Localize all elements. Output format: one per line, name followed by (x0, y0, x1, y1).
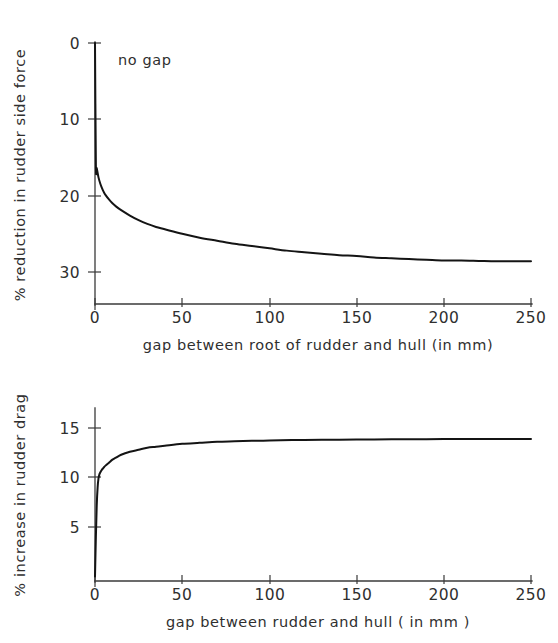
top-x-tick-label-100: 100 (255, 309, 286, 327)
chart-canvas: 0 10 20 30 0 50 100 150 200 250 gap betw… (0, 0, 558, 643)
bottom-x-tick-label-150: 150 (342, 586, 373, 604)
bottom-x-tick-label-50: 50 (172, 586, 193, 604)
top-y-tick-label-30: 30 (59, 264, 80, 282)
bottom-x-tick-label-0: 0 (90, 586, 100, 604)
top-y-tick-label-20: 20 (59, 188, 80, 206)
top-x-tick-label-50: 50 (172, 309, 193, 327)
top-x-tick-label-0: 0 (90, 309, 100, 327)
figure-container: 0 10 20 30 0 50 100 150 200 250 gap betw… (0, 0, 558, 643)
top-chart-no-gap-annotation: no gap (118, 52, 172, 68)
bottom-x-tick-label-200: 200 (429, 586, 460, 604)
top-x-tick-label-150: 150 (342, 309, 373, 327)
bottom-y-tick-label-5: 5 (70, 519, 80, 537)
bottom-chart-y-axis-title: % increase in rudder drag (12, 393, 28, 596)
top-x-tick-label-250: 250 (516, 309, 547, 327)
bottom-chart: 15 10 5 0 50 100 150 200 250 gap between… (12, 393, 546, 630)
bottom-chart-x-axis-title: gap between rudder and hull ( in mm ) (166, 614, 470, 630)
bottom-x-tick-label-250: 250 (516, 586, 547, 604)
top-chart: 0 10 20 30 0 50 100 150 200 250 gap betw… (12, 35, 546, 354)
bottom-y-tick-label-15: 15 (59, 420, 80, 438)
top-chart-y-axis-title: % reduction in rudder side force (12, 49, 28, 302)
top-y-tick-label-10: 10 (59, 111, 80, 129)
top-x-tick-label-200: 200 (429, 309, 460, 327)
bottom-x-tick-label-100: 100 (255, 586, 286, 604)
top-chart-x-axis-title: gap between root of rudder and hull (in … (143, 337, 494, 353)
top-y-tick-label-0: 0 (70, 35, 80, 53)
bottom-y-tick-label-10: 10 (59, 469, 80, 487)
top-chart-curve (95, 43, 531, 261)
bottom-chart-curve (95, 439, 531, 577)
